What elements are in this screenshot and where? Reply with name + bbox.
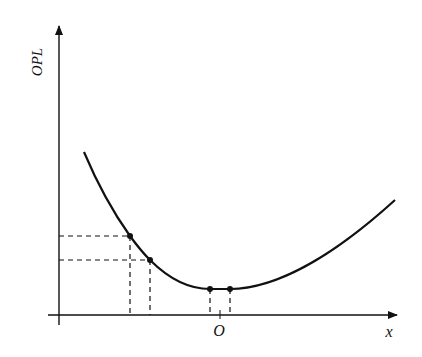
opl-curve (84, 152, 395, 289)
point-4 (227, 286, 233, 292)
point-1 (127, 233, 133, 239)
point-2 (147, 257, 153, 263)
point-3 (207, 286, 213, 292)
y-axis-label: OPL (29, 48, 45, 76)
opl-diagram: OPL x O (0, 0, 422, 357)
x-axis-label: x (384, 323, 392, 340)
origin-label: O (213, 322, 225, 339)
dashed-guides (59, 236, 230, 315)
